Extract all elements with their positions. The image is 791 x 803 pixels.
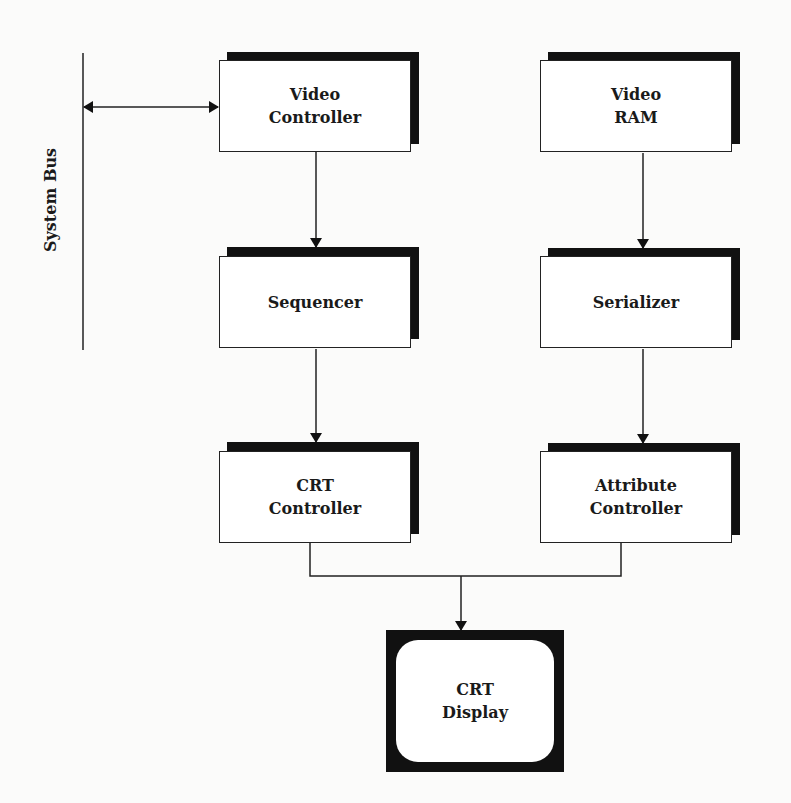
crt-controller-box: CRT Controller <box>219 451 411 543</box>
attribute-controller-label: Attribute Controller <box>590 474 682 520</box>
serializer-box: Serializer <box>540 256 732 348</box>
serializer-label: Serializer <box>593 291 679 314</box>
crt-display-icon: CRT Display <box>386 630 564 772</box>
crt-controller-label: CRT Controller <box>269 474 361 520</box>
video-ram-label: Video RAM <box>611 83 661 129</box>
video-ram-box: Video RAM <box>540 60 732 152</box>
sequencer-box: Sequencer <box>219 256 411 348</box>
crt-display-label: CRT Display <box>442 678 508 724</box>
system-bus-label: System Bus <box>41 148 60 252</box>
video-controller-label: Video Controller <box>269 83 361 129</box>
crt-display-screen: CRT Display <box>396 640 554 762</box>
sequencer-label: Sequencer <box>268 291 363 314</box>
attribute-controller-box: Attribute Controller <box>540 451 732 543</box>
video-controller-box: Video Controller <box>219 60 411 152</box>
